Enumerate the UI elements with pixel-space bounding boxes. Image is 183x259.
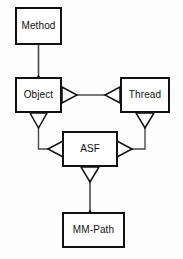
class-box-thread[interactable]: Thread <box>120 77 170 113</box>
hollow-triangle-arrowhead-object-bottom <box>30 113 47 128</box>
class-box-mm-path[interactable]: MM-Path <box>62 212 125 248</box>
edge-object-to-asf <box>30 112 63 157</box>
edge-thread-to-asf <box>117 112 154 157</box>
hollow-triangle-arrowhead-asf-right <box>117 141 132 157</box>
hollow-triangle-arrowhead-thread-left <box>105 87 120 103</box>
class-name-mm-path: MM-Path <box>73 225 114 235</box>
class-box-object[interactable]: Object <box>15 77 62 113</box>
hollow-triangle-arrowhead-thread-bottom <box>136 113 154 128</box>
hollow-triangle-arrowhead-asf-left <box>48 141 63 157</box>
class-name-thread: Thread <box>129 90 161 100</box>
class-box-method[interactable]: Method <box>15 7 62 45</box>
class-name-asf: ASF <box>80 144 100 154</box>
edge-object-to-thread <box>62 87 120 103</box>
class-name-method: Method <box>22 21 56 31</box>
hollow-triangle-arrowhead-object-right <box>62 87 77 103</box>
hollow-triangle-arrowhead-asf-bottom <box>81 167 99 182</box>
class-box-asf[interactable]: ASF <box>62 131 118 167</box>
uml-class-diagram: Method Object Thread ASF MM-Path <box>0 0 183 259</box>
class-name-object: Object <box>24 90 54 100</box>
